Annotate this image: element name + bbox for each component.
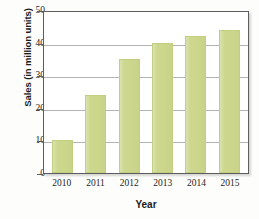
bar — [219, 30, 240, 173]
bar-chart-figure: Sales (in million units) 01020304050 201… — [0, 0, 259, 219]
y-tick-label: 10 — [21, 135, 45, 145]
plot-area — [43, 11, 249, 174]
y-tick-label: 20 — [21, 103, 45, 113]
x-tick-label: 2012 — [115, 178, 143, 188]
bar — [185, 36, 206, 173]
x-tick-label: 2011 — [81, 178, 109, 188]
x-tick-label: 2013 — [149, 178, 177, 188]
x-tick-label: 2014 — [182, 178, 210, 188]
x-axis-title: Year — [43, 199, 249, 210]
y-tick-label: 50 — [21, 5, 45, 15]
bar — [52, 140, 73, 173]
x-tick-label: 2010 — [48, 178, 76, 188]
bar-series — [44, 12, 248, 173]
y-tick-label: 40 — [21, 38, 45, 48]
x-tick-label: 2015 — [216, 178, 244, 188]
bar — [152, 43, 173, 173]
y-tick-mark — [37, 174, 43, 175]
bar — [85, 95, 106, 173]
y-tick-label: 30 — [21, 70, 45, 80]
x-axis-tick-labels: 201020112012201320142015 — [43, 178, 249, 188]
bar — [119, 59, 140, 173]
y-tick-label: 0 — [21, 168, 45, 178]
